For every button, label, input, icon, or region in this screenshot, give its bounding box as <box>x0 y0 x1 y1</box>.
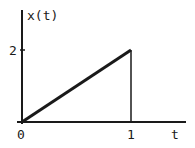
ramp-segment <box>22 50 131 122</box>
x-tick-label-1: 1 <box>127 127 135 142</box>
x-axis-label: t <box>171 127 179 142</box>
signal-plot: x(t) 2 0 1 t <box>0 0 195 148</box>
y-axis-label: x(t) <box>27 8 58 23</box>
x-tick-label-0: 0 <box>17 127 25 142</box>
y-tick-label-2: 2 <box>9 43 17 58</box>
